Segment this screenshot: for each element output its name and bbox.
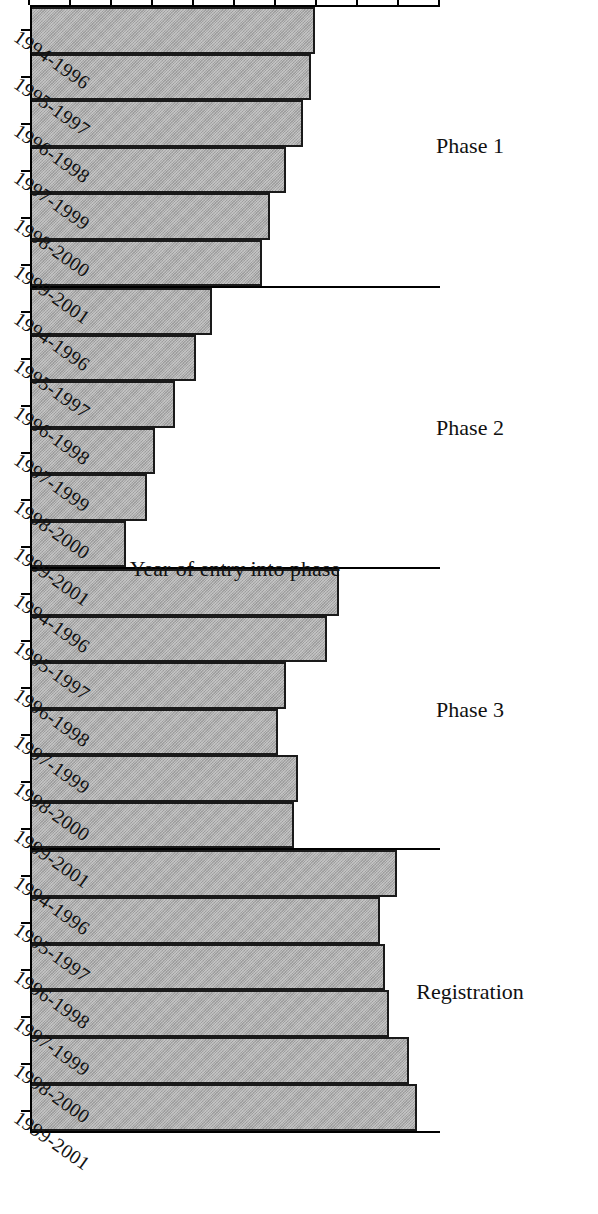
bar-slot — [32, 1037, 440, 1084]
chart-rotated-stage: 0102030405060708090100 1994-19961995-199… — [0, 0, 598, 1214]
bar-slot — [32, 897, 440, 944]
group-label: Phase 3 — [436, 697, 504, 723]
value-tick-label: 30 — [131, 0, 153, 4]
value-tick-label: 0 — [19, 0, 30, 4]
value-tick-label: 50 — [213, 0, 235, 4]
bar-group-phase-1 — [32, 7, 440, 288]
chart-figure: 0102030405060708090100 1994-19961995-199… — [0, 0, 598, 1214]
bar-slot — [32, 474, 440, 521]
bar-group-phase-2 — [32, 288, 440, 569]
bar-group-registration — [32, 850, 440, 1131]
value-tick-label: 80 — [336, 0, 358, 4]
value-tick-label: 70 — [295, 0, 317, 4]
value-tick-label: 40 — [172, 0, 194, 4]
bar[interactable] — [32, 7, 315, 54]
bar-slot — [32, 755, 440, 802]
category-axis-title: Year of entry into phase — [130, 556, 340, 582]
value-tick-label: 20 — [90, 0, 112, 4]
group-label: Phase 2 — [436, 415, 504, 441]
group-label: Registration — [416, 979, 524, 1005]
bar-slot — [32, 709, 440, 756]
bar-slot — [32, 662, 440, 709]
value-tick-label: 10 — [49, 0, 71, 4]
bar-slot — [32, 7, 440, 54]
value-tick-label: 100 — [407, 0, 440, 4]
bar-slot — [32, 802, 440, 849]
bar-slot — [32, 1084, 440, 1131]
bar-group-phase-3 — [32, 569, 440, 850]
bar-slot — [32, 850, 440, 897]
value-tick-label: 90 — [377, 0, 399, 4]
value-tick-label: 60 — [254, 0, 276, 4]
bar-slot — [32, 990, 440, 1037]
group-label: Phase 1 — [436, 133, 504, 159]
bar-slot — [32, 944, 440, 991]
